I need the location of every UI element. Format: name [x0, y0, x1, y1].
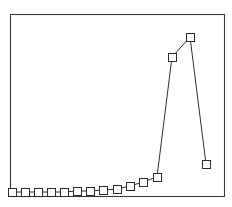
data-point-marker — [22, 189, 30, 197]
line-chart-plot — [0, 0, 232, 207]
data-point-marker — [35, 189, 43, 197]
data-point-marker — [48, 189, 56, 197]
data-point-marker — [114, 186, 122, 194]
data-point-marker — [203, 161, 211, 169]
data-point-marker — [61, 189, 69, 197]
data-point-marker — [9, 189, 17, 197]
data-point-marker — [87, 188, 95, 196]
data-point-marker — [100, 187, 108, 195]
data-point-marker — [74, 188, 82, 196]
data-point-marker — [154, 174, 162, 182]
chart-container — [0, 0, 232, 207]
data-point-marker — [127, 183, 135, 191]
data-point-marker — [187, 34, 195, 42]
data-point-marker — [140, 179, 148, 187]
data-point-marker — [169, 54, 177, 62]
